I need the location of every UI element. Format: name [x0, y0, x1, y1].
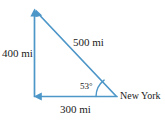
diagram-canvas: 400 mi 500 mi 300 mi 53° New York: [0, 0, 165, 125]
vertical-leg-label: 400 mi: [2, 48, 33, 59]
hypotenuse-label: 500 mi: [73, 37, 104, 48]
angle-label: 53°: [80, 82, 93, 91]
horizontal-leg-label: 300 mi: [60, 104, 91, 115]
new-york-vertex-label: New York: [120, 91, 161, 101]
hypotenuse-line: [39, 14, 117, 96]
